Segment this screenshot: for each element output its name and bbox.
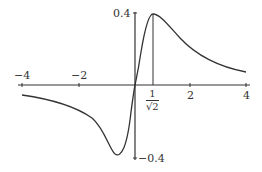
x-tick-label-4: 4 — [243, 90, 250, 101]
y-tick-label-neg: −0.4 — [138, 153, 165, 164]
x-tick-label-inv-sqrt2: 1 √2 — [146, 89, 159, 112]
x-tick-label-2: 2 — [187, 90, 194, 101]
y-tick-label-pos: 0.4 — [113, 8, 131, 19]
fraction-denominator: √2 — [146, 101, 159, 112]
chart-canvas — [0, 0, 262, 172]
x-tick-label-neg2: −2 — [71, 70, 87, 81]
x-tick-label-neg4: −4 — [14, 70, 30, 81]
fraction-numerator: 1 — [146, 89, 159, 101]
